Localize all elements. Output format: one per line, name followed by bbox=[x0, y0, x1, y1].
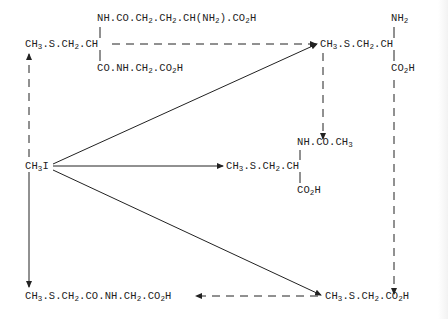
gsh-conjugate-top: NH.CO.CH2.CH2.CH(NH2).CO2H bbox=[97, 12, 256, 24]
methylthioacetic-acid: CH3.S.CH2.CO2H bbox=[325, 290, 409, 302]
arrow-ch3i-to-thioacetic bbox=[53, 170, 321, 295]
s-methylcysteine-top: NH2 bbox=[391, 12, 408, 24]
s-methylcysteine-main: CH3.S.CH2.CH bbox=[320, 38, 393, 50]
pathway-diagram: NH.CO.CH2.CH2.CH(NH2).CO2H CH3.S.CH2.CH … bbox=[0, 0, 448, 319]
mercapturic-top: NH.CO.CH3 bbox=[297, 136, 353, 148]
mercapturic-main: CH3.S.CH2.CH bbox=[226, 160, 299, 172]
methyl-iodide: CH3I bbox=[25, 160, 49, 172]
methylthioacetylglycine: CH3.S.CH2.CO.NH.CH2.CO2H bbox=[25, 290, 171, 302]
mercapturic-bottom: CO2H bbox=[297, 184, 321, 196]
s-methylcysteine-bottom: CO2H bbox=[391, 62, 415, 74]
gsh-conjugate-main: CH3.S.CH2.CH bbox=[25, 38, 98, 50]
gsh-conjugate-bottom: CO.NH.CH2.CO2H bbox=[97, 62, 183, 74]
arrow-ch3i-to-s-methylcysteine bbox=[53, 44, 317, 164]
